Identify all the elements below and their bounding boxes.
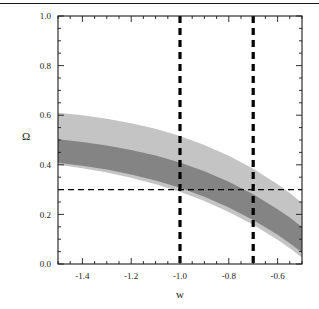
y-tick-label: 0.2 [40, 210, 51, 220]
y-axis-tick-labels: 0.00.20.40.60.81.0 [40, 11, 52, 269]
x-axis-tick-labels: -1.4-1.2-1.0-0.8-0.6 [75, 271, 285, 281]
y-tick-label: 1.0 [40, 11, 52, 21]
figure-container: -1.4-1.2-1.0-0.8-0.6 0.00.20.40.60.81.0 … [0, 0, 319, 309]
y-tick-label: 0.8 [40, 61, 52, 71]
x-tick-label: -0.8 [222, 271, 237, 281]
confidence-contour-plot: -1.4-1.2-1.0-0.8-0.6 0.00.20.40.60.81.0 … [0, 0, 319, 309]
y-tick-label: 0.0 [40, 259, 52, 269]
x-tick-label: -1.2 [124, 271, 138, 281]
x-axis-title: w [176, 288, 184, 300]
y-tick-label: 0.4 [40, 160, 52, 170]
y-axis-title: Ω [22, 130, 30, 142]
x-tick-label: -1.0 [173, 271, 188, 281]
x-tick-label: -1.4 [75, 271, 90, 281]
y-tick-label: 0.6 [40, 110, 52, 120]
x-tick-label: -0.6 [270, 271, 285, 281]
